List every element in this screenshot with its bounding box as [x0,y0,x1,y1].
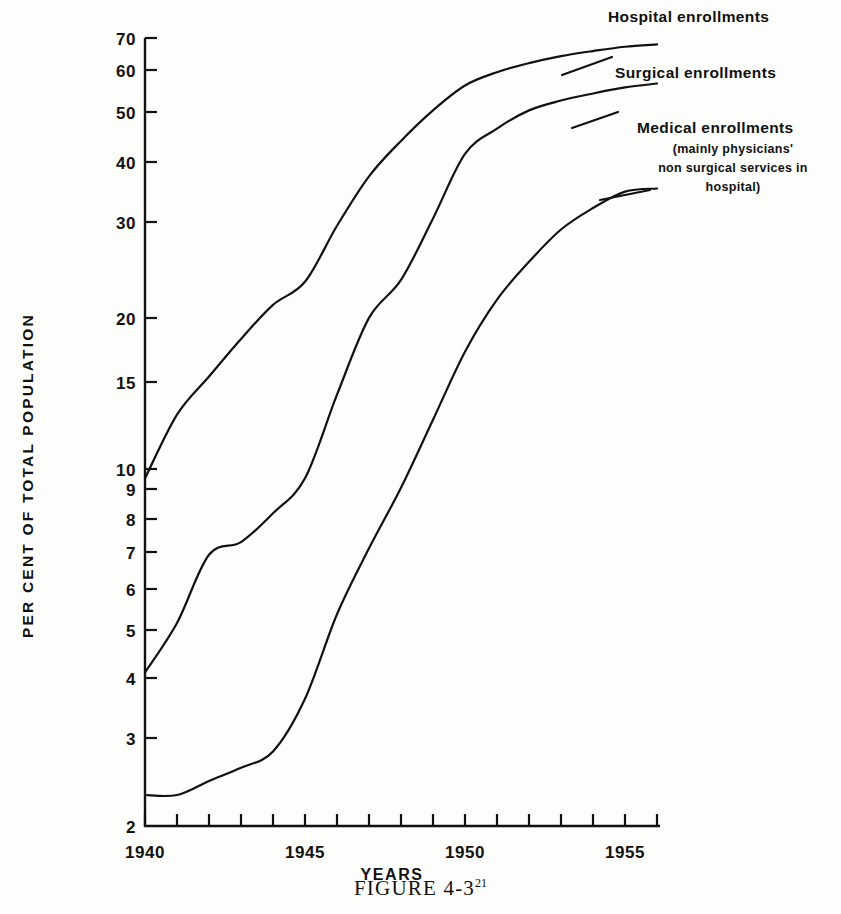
figure-container: PER CENT OF TOTAL POPULATION 70 60 50 [0,0,841,914]
x-axis-ticks [145,814,657,826]
annotation-medical-sub-3: hospital) [706,180,761,194]
annotation-surgical: Surgical enrollments [615,64,776,81]
y-axis-title: PER CENT OF TOTAL POPULATION [19,313,36,638]
series-line-surgical [145,84,657,673]
y-tick-4: 4 [126,670,136,689]
y-tick-8: 8 [126,511,136,530]
y-tick-50: 50 [116,104,136,123]
y-tick-7: 7 [126,544,136,563]
y-tick-10: 10 [116,461,136,480]
y-tick-15: 15 [116,374,136,393]
figure-caption-superscript: 21 [475,876,487,890]
y-tick-5: 5 [126,622,136,641]
y-tick-9: 9 [126,481,136,500]
annotation-hospital: Hospital enrollments [608,8,769,25]
x-axis-tick-labels: 1940 1945 1950 1955 [125,843,645,862]
y-tick-60: 60 [116,62,136,81]
y-tick-20: 20 [116,310,136,329]
x-tick-1940: 1940 [125,843,165,862]
y-tick-40: 40 [116,154,136,173]
leader-line-hospital [562,57,612,75]
figure-caption: FIGURE 4-321 [0,876,841,901]
line-chart: PER CENT OF TOTAL POPULATION 70 60 50 [0,0,841,914]
x-tick-1955: 1955 [605,843,645,862]
annotation-medical: Medical enrollments [637,119,794,136]
series-line-hospital [145,44,657,478]
axis-frame [145,38,660,826]
y-tick-70: 70 [116,30,136,49]
x-tick-1950: 1950 [445,843,485,862]
y-tick-30: 30 [116,214,136,233]
y-tick-3: 3 [126,730,136,749]
x-tick-1945: 1945 [285,843,325,862]
y-tick-2: 2 [126,818,136,837]
y-axis-tick-labels: 70 60 50 40 30 20 15 10 9 8 7 6 5 4 3 2 [116,30,136,837]
leader-line-surgical [572,112,618,128]
annotation-medical-sub-2: non surgical services in [658,161,808,175]
y-tick-6: 6 [126,581,136,600]
y-axis-ticks [145,38,157,738]
figure-caption-text: FIGURE 4-3 [354,876,475,900]
annotation-medical-sub-1: (mainly physicians' [673,142,794,156]
